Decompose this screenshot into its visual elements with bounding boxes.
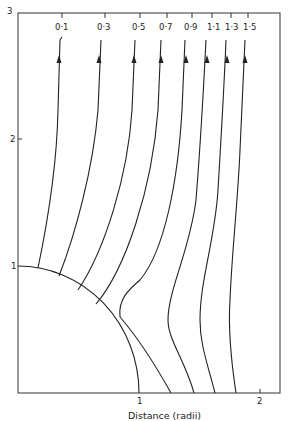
streamline-0-5: [78, 40, 135, 290]
label-0-5: 0·5: [132, 22, 146, 32]
label-0-3: 0·3: [97, 22, 111, 32]
arrow-icon: [132, 55, 137, 63]
x-axis-label: Distance (radii): [128, 410, 201, 421]
plot-frame: [18, 13, 280, 393]
flow-arrows: [57, 55, 248, 63]
streamline-0-9: [120, 40, 185, 317]
streamline-0-7: [96, 40, 161, 304]
streamline-1-1: [168, 40, 206, 393]
streamline-labels: 0·1 0·3 0·5 0·7 0·9 1·1 1·3 1·5: [55, 22, 257, 32]
y-tick-2: 2: [10, 134, 15, 144]
y-tick-1: 1: [11, 261, 16, 271]
streamline-1-3: [200, 40, 226, 393]
streamline-separatrix: [120, 317, 171, 393]
label-1-1: 1·1: [207, 22, 221, 32]
arrow-icon: [243, 55, 248, 63]
arrow-icon: [57, 55, 62, 63]
x-tick-1: 1: [137, 396, 142, 406]
label-0-7: 0·7: [159, 22, 173, 32]
label-1-5: 1·5: [243, 22, 257, 32]
arrow-icon: [159, 55, 164, 63]
streamlines: [38, 37, 245, 393]
streamline-0-1: [38, 40, 60, 268]
x-tick-2: 2: [257, 396, 262, 406]
streamline-diagram: 3 2 1 1 2 Distance (radii) 0·1 0·3 0·5 0…: [0, 0, 289, 421]
label-0-9: 0·9: [184, 22, 198, 32]
label-1-3: 1·3: [225, 22, 239, 32]
streamline-1-5: [229, 40, 245, 393]
sphere-boundary: [18, 266, 139, 393]
streamline-0-3: [59, 40, 101, 276]
label-0-1: 0·1: [55, 22, 69, 32]
y-tick-3: 3: [7, 6, 12, 16]
